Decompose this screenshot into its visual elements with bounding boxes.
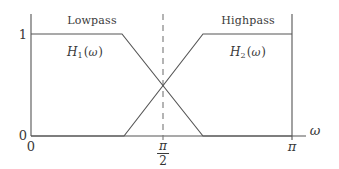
- x-tick-label-zero: 0: [27, 140, 35, 153]
- h1-close-paren: ): [97, 45, 103, 59]
- x-tick-label-pi: π: [288, 140, 297, 153]
- h2-symbol: H: [230, 45, 240, 59]
- highpass-region-label: Highpass: [221, 15, 275, 26]
- h1-function-label: H1(ω): [67, 46, 103, 60]
- y-tick-label-one: 1: [19, 28, 27, 41]
- omega-axis-label: ω: [310, 124, 321, 137]
- h1-subscript: 1: [77, 51, 82, 60]
- h2-subscript: 2: [240, 51, 245, 60]
- lowpass-region-label: Lowpass: [67, 15, 117, 26]
- h2-close-paren: ): [260, 45, 266, 59]
- h2-function-label: H2(ω): [230, 46, 266, 60]
- h1-symbol: H: [67, 45, 77, 59]
- half-pi-numerator: π: [157, 140, 169, 153]
- half-pi-denominator: 2: [157, 155, 169, 168]
- filter-response-figure: Lowpass Highpass H1(ω) H2(ω) 1 0 0 π 2 π…: [0, 0, 339, 169]
- x-tick-label-half-pi: π 2: [157, 140, 169, 167]
